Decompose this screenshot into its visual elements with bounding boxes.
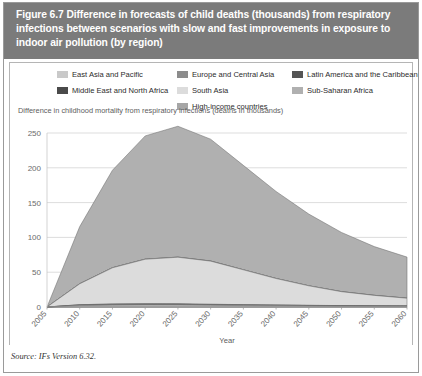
legend-swatch-icon: [292, 71, 303, 78]
x-tick-label: 2035: [226, 309, 245, 329]
x-axis-title: Year: [219, 336, 235, 345]
legend-item-label: Latin America and the Caribbean: [307, 70, 418, 79]
legend-item-label: South Asia: [192, 86, 228, 95]
legend-item[interactable]: East Asia and Pacific: [57, 67, 168, 82]
x-tick-label: 2055: [357, 309, 376, 329]
legend-item-label: Europe and Central Asia: [192, 70, 274, 79]
area-chart-svg: 0501001502002502005201020152020202520302…: [9, 106, 413, 346]
figure-container: Figure 6.7 Difference in forecasts of ch…: [0, 0, 422, 376]
legend-swatch-icon: [57, 71, 68, 78]
chart-plot-area: Difference in childhood mortality from r…: [9, 106, 413, 346]
legend-item-label: East Asia and Pacific: [72, 70, 143, 79]
legend-swatch-icon: [177, 87, 188, 94]
legend-item-label: Middle East and North Africa: [72, 86, 168, 95]
x-tick-label: 2040: [259, 309, 278, 329]
x-tick-label: 2050: [324, 309, 343, 329]
x-tick-label: 2025: [161, 309, 180, 329]
x-tick-label: 2005: [30, 309, 49, 329]
legend-item[interactable]: South Asia: [177, 83, 274, 98]
y-tick-label: 150: [28, 199, 42, 208]
x-tick-label: 2030: [194, 309, 213, 329]
x-tick-label: 2015: [95, 309, 114, 329]
legend-item[interactable]: Middle East and North Africa: [57, 83, 168, 98]
y-tick-label: 200: [28, 164, 42, 173]
legend-column: East Asia and PacificMiddle East and Nor…: [57, 67, 168, 99]
legend-swatch-icon: [177, 71, 188, 78]
source-note: Source: IFs Version 6.32.: [11, 352, 96, 361]
x-tick-label: 2020: [128, 309, 147, 329]
legend-item[interactable]: Europe and Central Asia: [177, 67, 274, 82]
figure-header-band: Figure 6.7 Difference in forecasts of ch…: [4, 3, 418, 59]
y-tick-label: 250: [28, 129, 42, 138]
x-tick-label: 2045: [292, 309, 311, 329]
y-tick-label: 50: [32, 268, 41, 277]
legend-swatch-icon: [57, 87, 68, 94]
legend-item[interactable]: Sub-Saharan Africa: [292, 83, 418, 98]
page-title: Figure 6.7 Difference in forecasts of ch…: [16, 8, 408, 51]
chart-legend: East Asia and PacificMiddle East and Nor…: [9, 62, 413, 106]
x-tick-label: 2010: [63, 309, 82, 329]
y-tick-label: 100: [28, 233, 42, 242]
legend-swatch-icon: [292, 87, 303, 94]
legend-column: Latin America and the CaribbeanSub-Sahar…: [292, 67, 418, 99]
legend-item-label: Sub-Saharan Africa: [307, 86, 373, 95]
legend-item[interactable]: Latin America and the Caribbean: [292, 67, 418, 82]
x-tick-label: 2060: [390, 309, 409, 329]
